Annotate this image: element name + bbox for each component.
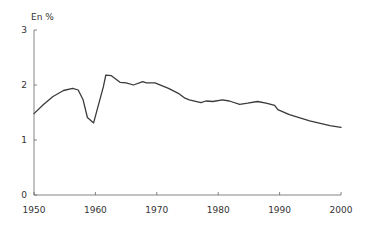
x-ticks: 195019601970198019902000 — [23, 192, 353, 215]
x-tick-label: 2000 — [330, 205, 353, 215]
y-tick-label: 1 — [21, 135, 27, 145]
line-chart: En % 0123 195019601970198019902000 — [0, 0, 369, 229]
y-tick-label: 0 — [21, 190, 27, 200]
y-tick-label: 2 — [21, 80, 27, 90]
x-tick-label: 1970 — [145, 205, 168, 215]
data-line — [34, 75, 341, 127]
y-axis-unit-label: En % — [31, 12, 54, 22]
x-tick-label: 1980 — [207, 205, 230, 215]
x-tick-label: 1990 — [268, 205, 291, 215]
x-tick-label: 1960 — [84, 205, 107, 215]
x-tick-label: 1950 — [23, 205, 46, 215]
y-tick-label: 3 — [21, 25, 27, 35]
